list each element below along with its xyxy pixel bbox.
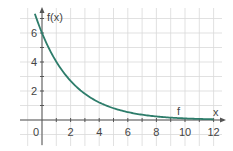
y-axis-label: f(x) <box>47 11 63 23</box>
x-axis-arrow-icon <box>220 118 226 123</box>
y-tick-label: 4 <box>31 56 37 68</box>
function-graph: 24681012246 f(x) x 0 f <box>0 0 233 151</box>
curve-f <box>35 14 214 120</box>
x-tick-label: 10 <box>179 126 191 138</box>
y-tick-label: 2 <box>31 85 37 97</box>
axes <box>20 7 226 145</box>
x-axis-label: x <box>213 106 219 118</box>
x-tick-label: 12 <box>207 126 219 138</box>
grid-lines <box>20 8 222 146</box>
curve-label-f: f <box>177 105 181 117</box>
x-tick-label: 4 <box>96 126 102 138</box>
x-tick-label: 2 <box>68 126 74 138</box>
y-tick-label: 6 <box>31 27 37 39</box>
x-tick-label: 6 <box>125 126 131 138</box>
y-axis-arrow-icon <box>40 7 45 13</box>
x-tick-label: 8 <box>153 126 159 138</box>
origin-label: 0 <box>33 126 39 138</box>
